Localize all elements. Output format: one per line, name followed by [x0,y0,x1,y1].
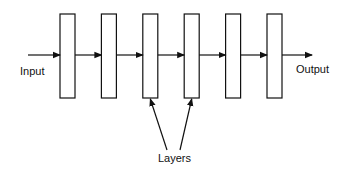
layer-box-5 [226,14,241,98]
layers-pointer-arrow-2 [180,99,192,150]
layers-label: Layers [158,152,192,164]
layers-pointer-arrow-1 [150,99,167,150]
annotation-group [150,99,191,150]
layer-box-2 [101,14,116,98]
layer-box-1 [60,14,75,98]
layer-box-6 [267,14,282,98]
layered-network-diagram: Input Output Layers [0,0,352,170]
layers-group [60,14,282,98]
input-label: Input [20,65,44,77]
layer-box-4 [184,14,199,98]
layer-box-3 [143,14,158,98]
output-label: Output [296,63,329,75]
